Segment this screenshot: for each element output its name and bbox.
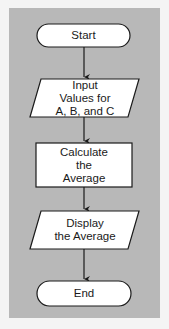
display-label: Display the Average — [32, 211, 138, 249]
start-label: Start — [37, 24, 130, 47]
calculate-label: Calculate the Average — [36, 143, 132, 187]
input-label: Input Values for A, B, and C — [32, 79, 138, 117]
end-label: End — [37, 281, 131, 306]
